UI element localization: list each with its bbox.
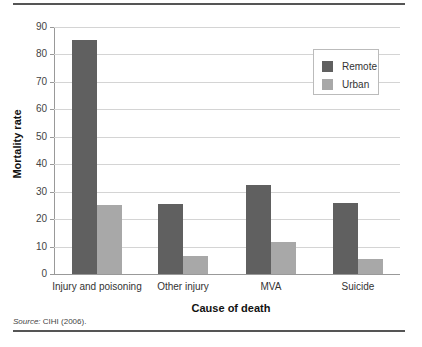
y-axis [54,27,55,274]
source-note: Source: CIHI (2006). [13,317,86,326]
x-axis-title: Cause of death [0,302,422,314]
y-tick-label: 70 [21,76,47,87]
gridline [54,109,400,110]
y-tick-label: 50 [21,131,47,142]
y-tick [50,109,54,110]
y-tick-label: 80 [21,48,47,59]
y-tick [50,27,54,28]
y-tick [50,54,54,55]
legend-item-remote: Remote [322,60,377,72]
legend-label-remote: Remote [342,61,377,72]
bottom-rule [13,330,405,332]
y-tick [50,137,54,138]
y-tick [50,82,54,83]
legend: Remote Urban [313,49,379,95]
x-tick-label: Suicide [298,281,418,292]
y-tick [50,192,54,193]
y-tick-label: 40 [21,158,47,169]
legend-swatch-remote [322,61,333,72]
bar-remote-other-injury [158,204,183,274]
bar-urban-injury-and-poisoning [97,205,122,274]
legend-item-urban: Urban [322,78,369,90]
source-label: Source: [13,317,41,326]
y-tick [50,219,54,220]
gridline [54,164,400,165]
bar-urban-suicide [358,259,383,274]
y-tick-label: 90 [21,21,47,32]
gridline [54,192,400,193]
top-rule [13,3,405,5]
gridline [54,27,400,28]
x-axis [54,274,400,275]
legend-label-urban: Urban [342,79,369,90]
bar-urban-other-injury [183,256,208,274]
legend-swatch-urban [322,79,333,90]
y-tick-label: 10 [21,241,47,252]
bar-urban-mva [271,242,296,274]
y-tick-label: 30 [21,186,47,197]
y-tick-label: 20 [21,213,47,224]
source-text: CIHI (2006). [43,317,87,326]
y-tick-label: 60 [21,103,47,114]
y-tick [50,247,54,248]
y-tick-label: 0 [21,268,47,279]
bar-remote-suicide [333,203,358,274]
gridline [54,137,400,138]
y-tick [50,164,54,165]
y-tick [50,274,54,275]
bar-remote-mva [246,185,271,274]
bar-remote-injury-and-poisoning [72,40,97,274]
